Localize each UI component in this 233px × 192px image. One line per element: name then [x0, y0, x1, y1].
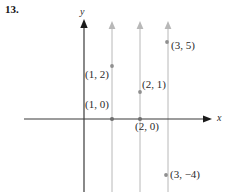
x-axis-label: x	[217, 113, 221, 123]
point-label-1-0: (1, 0)	[85, 99, 109, 110]
x-axis	[24, 115, 212, 122]
point-3-5	[165, 40, 169, 44]
y-axis-label: y	[80, 7, 84, 17]
vertical-line-x2	[137, 21, 144, 192]
point-1-0	[110, 117, 114, 121]
exercise-figure: 13.	[0, 0, 233, 192]
point-2-1	[138, 90, 142, 94]
coordinate-plane	[0, 0, 233, 192]
point-1-2	[110, 64, 114, 68]
point-3-minus4	[164, 173, 168, 177]
point-label-3-minus4: (3, −4)	[170, 169, 200, 180]
data-points	[110, 40, 169, 177]
point-label-2-1: (2, 1)	[142, 79, 166, 90]
point-label-3-5: (3, 5)	[171, 40, 195, 51]
vertical-line-x1	[109, 21, 116, 192]
point-label-2-0: (2, 0)	[135, 121, 159, 132]
point-label-1-2: (1, 2)	[85, 69, 109, 80]
